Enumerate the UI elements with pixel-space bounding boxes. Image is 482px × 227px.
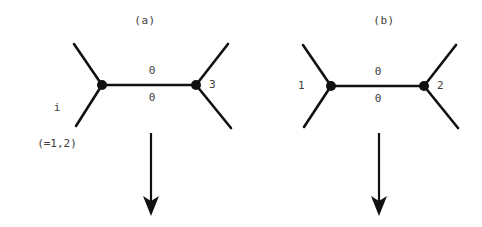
propagator-label-below: 0 bbox=[142, 92, 162, 104]
propagator-label-above: 0 bbox=[142, 65, 162, 77]
propagator-label-above: 0 bbox=[368, 66, 388, 78]
left-vertex-index-range: (=1,2) bbox=[22, 138, 92, 150]
left-vertex-index-symbol: i bbox=[22, 102, 92, 114]
external-leg-lower-right bbox=[196, 85, 231, 128]
right-vertex-label: 2 bbox=[437, 80, 444, 92]
down-arrow bbox=[371, 133, 387, 216]
vertex-right bbox=[191, 80, 201, 90]
propagator-label-below: 0 bbox=[368, 93, 388, 105]
down-arrow bbox=[143, 133, 159, 216]
figure-root: (a) 0 0 i (=1,2) 3 (b) bbox=[0, 0, 482, 227]
vertex-right bbox=[419, 81, 429, 91]
left-vertex-index-label: i (=1,2) bbox=[22, 78, 92, 174]
diagram-panel-b: (b) 0 0 1 2 bbox=[241, 0, 482, 227]
vertex-left bbox=[326, 81, 336, 91]
right-vertex-label: 3 bbox=[209, 79, 216, 91]
vertex-left bbox=[97, 80, 107, 90]
external-leg-lower-left bbox=[304, 86, 331, 127]
left-vertex-label: 1 bbox=[298, 80, 305, 92]
external-leg-upper-left bbox=[303, 45, 331, 86]
panel-b-graphics bbox=[241, 0, 482, 227]
external-leg-lower-right bbox=[424, 86, 458, 128]
diagram-panel-a: (a) 0 0 i (=1,2) 3 bbox=[0, 0, 241, 227]
